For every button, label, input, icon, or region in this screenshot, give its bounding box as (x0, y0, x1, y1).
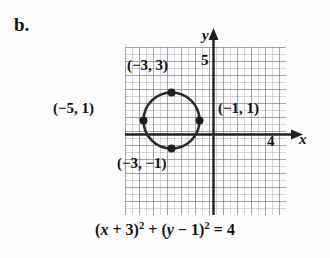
circle-curve (144, 93, 200, 149)
point-marker-bottom (168, 145, 176, 153)
point-label-right: (−1, 1) (218, 100, 259, 117)
x-axis-tick-label: 4 (267, 133, 275, 150)
equation-plus-operator: + ( (144, 221, 166, 238)
equation-caption: (x + 3)2 + (y − 1)2 = 4 (0, 221, 330, 239)
equation-minus-one: − 1) (174, 221, 204, 238)
point-marker-right (196, 117, 204, 125)
equation-y-variable: y (167, 221, 174, 238)
y-axis (209, 28, 219, 215)
point-label-top: (−3, 3) (127, 57, 168, 74)
point-marker-left (140, 117, 148, 125)
graph-canvas (0, 0, 330, 258)
x-axis-label: x (299, 131, 307, 148)
point-label-bottom: (−3, −1) (117, 155, 167, 172)
y-axis-label: y (202, 27, 209, 44)
point-label-left: (−5, 1) (53, 100, 94, 117)
circle-graph-figure: b. y x 5 4 (−3, 3) (−5, 1) (−1, 1) (−3, … (0, 0, 330, 258)
equation-plus-three: + 3) (108, 221, 138, 238)
y-axis-tick-label: 5 (201, 52, 209, 69)
point-marker-top (168, 89, 176, 97)
equation-equals-four: = 4 (210, 221, 235, 238)
